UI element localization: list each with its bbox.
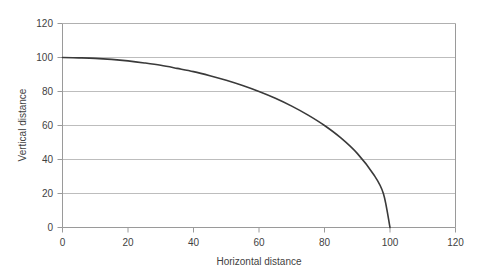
y-tick-label: 40 [42, 154, 54, 165]
x-tick-label: 40 [188, 237, 200, 248]
y-axis-title: Vertical distance [17, 88, 28, 161]
x-tick-label: 100 [382, 237, 399, 248]
x-axis-title: Horizontal distance [216, 256, 301, 267]
y-tick-label: 120 [36, 18, 53, 29]
x-tick-label: 0 [60, 237, 66, 248]
x-tick-label: 20 [122, 237, 134, 248]
x-axis-ticks [63, 228, 456, 233]
y-tick-label: 60 [42, 120, 54, 131]
x-tick-label: 60 [253, 237, 265, 248]
y-tick-label: 100 [36, 52, 53, 63]
y-tick-label: 20 [42, 188, 54, 199]
chart-container: 120 100 80 60 40 20 0 0 20 40 60 80 100 … [0, 0, 487, 275]
x-tick-labels: 0 20 40 60 80 100 120 [60, 237, 465, 248]
y-axis-ticks [58, 24, 63, 228]
y-tick-label: 80 [42, 86, 54, 97]
y-tick-label: 0 [47, 222, 53, 233]
data-series-line [63, 58, 391, 228]
x-tick-label: 80 [319, 237, 331, 248]
y-tick-labels: 120 100 80 60 40 20 0 [36, 18, 53, 233]
line-chart: 120 100 80 60 40 20 0 0 20 40 60 80 100 … [0, 0, 487, 275]
gridlines-horizontal [63, 24, 456, 194]
x-tick-label: 120 [447, 237, 464, 248]
